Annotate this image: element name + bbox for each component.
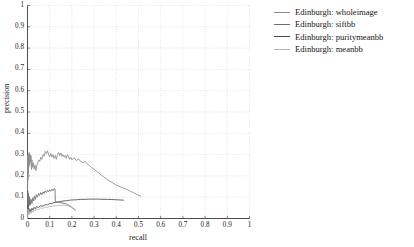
x-axis-label: recall: [129, 233, 147, 242]
x-tick-label: 0: [26, 222, 30, 229]
series-line-2: [28, 199, 124, 218]
series-line-3: [28, 205, 76, 218]
legend-item[interactable]: Edinburgh: puritymeanbb: [274, 31, 414, 43]
series-line-0: [28, 151, 141, 219]
x-tick-label: 0.7: [178, 222, 187, 229]
gridlines: [28, 6, 250, 219]
legend-line-icon: [274, 24, 290, 25]
legend-item-label: Edinburgh: meanbb: [295, 45, 363, 54]
x-tick-label: 0.8: [201, 222, 210, 229]
y-axis-label: precision: [2, 84, 11, 113]
y-tick-label: 0.7: [6, 66, 24, 73]
precision-recall-figure: 00.10.20.30.40.50.60.70.80.9100.10.20.30…: [0, 0, 414, 247]
x-tick-label: 0.3: [90, 222, 99, 229]
chart-legend: Edinburgh: wholeimageEdinburgh: siftbbEd…: [274, 6, 414, 56]
x-tick-label: 0.4: [112, 222, 121, 229]
plot-area: 00.10.20.30.40.50.60.70.80.9100.10.20.30…: [0, 0, 270, 247]
legend-line-icon: [274, 49, 290, 50]
x-tick-label: 1: [248, 222, 252, 229]
plot-canvas: [0, 0, 270, 247]
legend-line-icon: [274, 36, 290, 37]
legend-line-icon: [274, 12, 290, 13]
legend-item-label: Edinburgh: siftbb: [295, 20, 355, 29]
y-tick-label: 0.9: [6, 23, 24, 30]
legend-item-label: Edinburgh: wholeimage: [295, 8, 378, 17]
x-tick-label: 0.2: [67, 222, 76, 229]
x-tick-label: 0.5: [134, 222, 143, 229]
y-tick-label: 0.2: [6, 172, 24, 179]
legend-item[interactable]: Edinburgh: meanbb: [274, 43, 414, 55]
x-tick-label: 0.6: [156, 222, 165, 229]
y-tick-label: 0.4: [6, 130, 24, 137]
y-tick-label: 0.3: [6, 151, 24, 158]
y-tick-label: 0: [6, 215, 24, 222]
x-tick-label: 0.1: [45, 222, 54, 229]
legend-item[interactable]: Edinburgh: wholeimage: [274, 6, 414, 18]
data-series-group: [28, 151, 141, 219]
legend-item[interactable]: Edinburgh: siftbb: [274, 18, 414, 30]
x-tick-label: 0.9: [223, 222, 232, 229]
y-tick-label: 0.8: [6, 44, 24, 51]
y-tick-label: 0.1: [6, 194, 24, 201]
legend-item-label: Edinburgh: puritymeanbb: [295, 33, 383, 42]
y-tick-label: 1: [6, 2, 24, 9]
